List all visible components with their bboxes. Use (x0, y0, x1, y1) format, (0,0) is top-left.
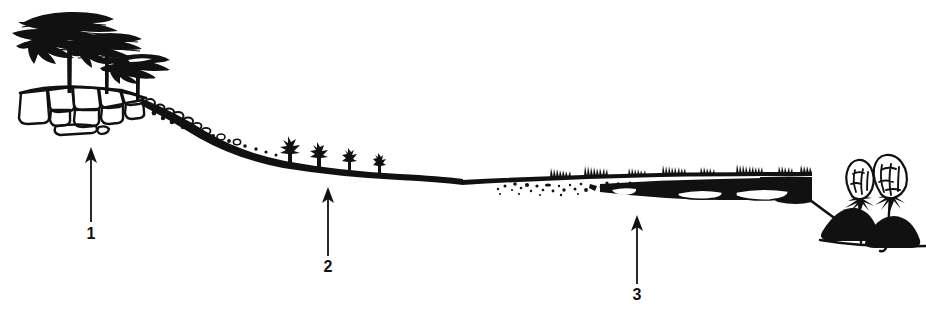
pebble (254, 147, 257, 150)
stipple-dot (574, 188, 577, 191)
callout-label-2: 2 (324, 258, 333, 275)
stipple-dot (569, 184, 571, 186)
stipple-dot (562, 188, 565, 191)
stipple-dot (577, 193, 579, 195)
stipple-dot (497, 188, 499, 190)
landscape-cross-section-figure: 1 2 3 (0, 0, 926, 317)
pebble (264, 150, 267, 153)
stipple-dot (580, 183, 583, 186)
callout-label-1: 1 (87, 225, 96, 242)
stipple-dot (530, 190, 532, 192)
stipple-dot (518, 193, 520, 195)
stipple-dot (499, 193, 501, 195)
callout-label-3: 3 (633, 286, 642, 303)
pebble (243, 144, 247, 148)
stipple-dot (520, 187, 523, 190)
pebble (227, 139, 231, 143)
stipple-dot (542, 189, 545, 192)
stipple-dot (545, 183, 551, 186)
stipple-dot (511, 189, 513, 191)
stipple-dot (504, 185, 507, 188)
scene-svg: 1 2 3 (0, 0, 926, 317)
stipple-dot (513, 182, 517, 186)
stipple-dot (539, 194, 541, 196)
pebble (275, 154, 278, 157)
stipple-dot (525, 183, 529, 187)
stipple-dot (535, 184, 538, 187)
stipple-dot (584, 188, 588, 192)
stipple-dot (558, 185, 560, 187)
stipple-dot (552, 190, 555, 193)
stipple-dot (560, 194, 562, 196)
